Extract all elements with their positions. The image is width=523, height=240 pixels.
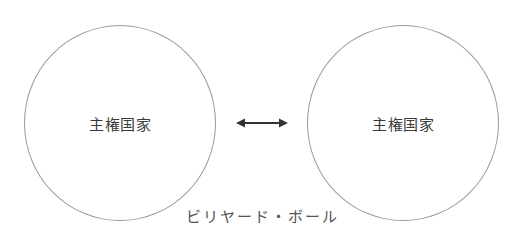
sovereign-state-label-left: 主権国家 [89,113,151,134]
sovereign-state-label-right: 主権国家 [372,113,434,134]
diagram-caption: ビリヤード・ボール [186,205,339,226]
double-arrow-icon [236,116,288,130]
